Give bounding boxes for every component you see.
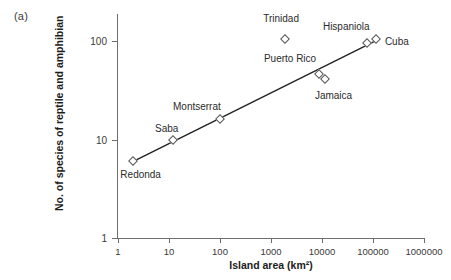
x-tick-label: 100000 [357,246,389,257]
y-tick-label: 10 [96,134,107,145]
data-point-marker [371,34,381,44]
x-tick-label: 1000000 [406,246,443,257]
data-point-label: Hispaniola [323,21,370,32]
y-tick-mark [112,140,117,141]
x-tick-mark [169,239,170,243]
x-tick-label: 10000 [309,246,335,257]
data-point-marker [280,34,290,44]
x-tick-label: 1 [115,246,120,257]
data-point-marker [215,114,225,124]
data-point-label: Trinidad [263,13,299,24]
data-point-marker [320,74,330,84]
data-point-label: Saba [155,123,178,134]
data-point-label: Redonda [120,169,161,180]
data-point-marker [168,135,178,145]
x-axis-title: Island area (km²) [117,259,425,271]
y-axis-title: No. of species of reptile and amphibian [53,31,65,211]
y-tick-label: 1 [101,233,107,244]
x-tick-label: 100 [212,246,228,257]
x-tick-mark [271,239,272,243]
x-tick-label: 10 [164,246,175,257]
data-point-label: Puerto Rico [264,53,316,64]
data-point-marker [128,156,138,166]
x-tick-mark [220,239,221,243]
y-tick-mark [112,238,117,239]
y-axis-line [117,14,118,239]
x-tick-mark [424,239,425,243]
y-tick-label: 100 [90,36,107,47]
panel-label: (a) [14,10,28,22]
data-point-label: Cuba [385,36,409,47]
x-tick-mark [373,239,374,243]
x-tick-mark [118,239,119,243]
x-tick-mark [322,239,323,243]
species-area-chart-figure: (a) 1101001000100001000001000000 110100 … [0,0,451,280]
data-point-marker [362,38,372,48]
data-point-label: Montserrat [173,101,221,112]
x-tick-label: 1000 [260,246,281,257]
y-tick-mark [112,41,117,42]
data-point-label: Jamaica [315,90,352,101]
